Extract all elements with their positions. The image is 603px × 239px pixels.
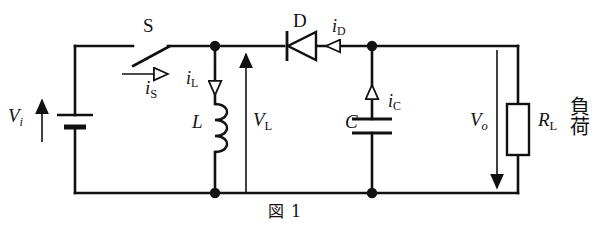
capacitor-symbol [352,119,392,133]
label-inductor: L [192,112,203,131]
label-inductor-voltage: VL [253,110,272,132]
label-capacitor-current: iC [388,92,401,113]
label-load-japanese: 負荷 [568,96,588,136]
circuit-figure: Vi S iS iL L VL D iD iC C Vo RL 負荷 図 1 [0,0,603,239]
node-dot-inductor-bottom [210,188,220,198]
label-source-voltage: Vi [8,106,23,128]
node-dot-capacitor-bottom [367,188,377,198]
diode-triangle [288,32,316,60]
label-switch-current: iS [145,78,157,100]
resistor-body [507,104,529,155]
label-capacitor: C [345,112,358,131]
label-output-voltage: Vo [470,110,488,132]
label-diode: D [293,11,307,30]
label-load-resistor: RL [538,110,557,132]
battery-symbol [57,115,93,127]
label-inductor-current: iL [186,69,198,90]
node-dot-inductor-top [210,41,220,51]
figure-caption: 図 1 [268,204,302,220]
wires [75,46,518,193]
inductor-coil-path [215,104,227,152]
label-diode-current: iD [332,17,346,38]
switch-blade [133,46,170,66]
resistor-symbol [507,104,529,155]
diode-symbol [287,31,316,61]
label-switch: S [143,16,154,35]
node-dot-capacitor-top [367,41,377,51]
switch-symbol [133,46,170,66]
inductor-symbol [215,104,227,152]
